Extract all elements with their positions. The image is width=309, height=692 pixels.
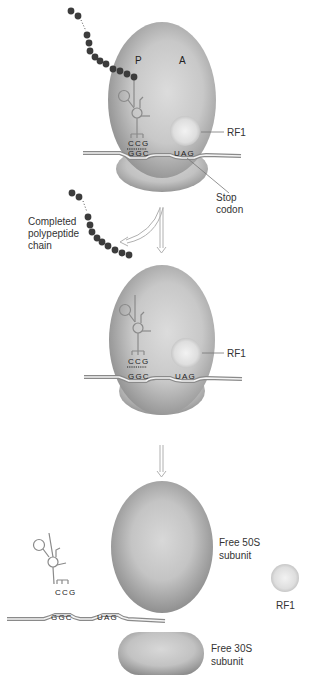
free-mrna-codon: GGC bbox=[51, 613, 73, 622]
free-rf1-label: RF1 bbox=[276, 600, 295, 611]
free-30s-label-line2: subunit bbox=[211, 656, 243, 667]
rf1-factor bbox=[170, 116, 200, 146]
free-rf1-factor bbox=[271, 564, 299, 592]
stop-codon-label-line1: Stop bbox=[216, 192, 237, 203]
free-stop-codon: UAG bbox=[97, 613, 118, 622]
mrna-codon-p: GGC bbox=[128, 149, 150, 158]
panel-2: CCG GGC UAG RF1 bbox=[84, 265, 246, 415]
free-50s-label-line1: Free 50S bbox=[219, 537, 260, 548]
completed-label-line2: polypeptide bbox=[28, 228, 80, 239]
termination-diagram: P A CCG GGC UAG RF1 Stop codon bbox=[0, 0, 309, 692]
panel-1: P A CCG GGC UAG RF1 Stop codon bbox=[68, 8, 247, 215]
free-30s-label-line1: Free 30S bbox=[211, 643, 252, 654]
a-site-label: A bbox=[179, 55, 186, 66]
arrow-down-with-release-branch bbox=[120, 207, 166, 253]
stop-codon-text: UAG bbox=[175, 372, 196, 381]
completed-label-line1: Completed bbox=[28, 216, 76, 227]
arrow-down bbox=[157, 445, 166, 477]
p-site-label: P bbox=[135, 55, 142, 66]
free-50s-label-line2: subunit bbox=[219, 550, 251, 561]
free-50s-subunit bbox=[111, 481, 213, 613]
chain-dotted-gap bbox=[81, 20, 86, 31]
free-30s-subunit bbox=[118, 632, 204, 675]
mrna-codon-p: GGC bbox=[128, 372, 150, 381]
stop-codon-label-line2: codon bbox=[216, 204, 243, 215]
released-chain-dotted-gap bbox=[83, 201, 87, 212]
rf1-factor bbox=[171, 338, 201, 368]
rf1-label: RF1 bbox=[227, 127, 246, 138]
completed-label-line3: chain bbox=[28, 240, 52, 251]
anticodon-text: CCG bbox=[128, 139, 149, 148]
rf1-label: RF1 bbox=[227, 348, 246, 359]
free-trna-anticodon: CCG bbox=[55, 588, 76, 597]
large-subunit-50s bbox=[109, 265, 215, 415]
free-trna-icon bbox=[34, 533, 69, 584]
anticodon-text: CCG bbox=[128, 357, 149, 366]
stop-codon-text: UAG bbox=[174, 149, 195, 158]
completed-polypeptide bbox=[69, 190, 133, 259]
panel-3: Free 50S subunit CCG GGC UAG Free 30S su… bbox=[7, 481, 299, 675]
